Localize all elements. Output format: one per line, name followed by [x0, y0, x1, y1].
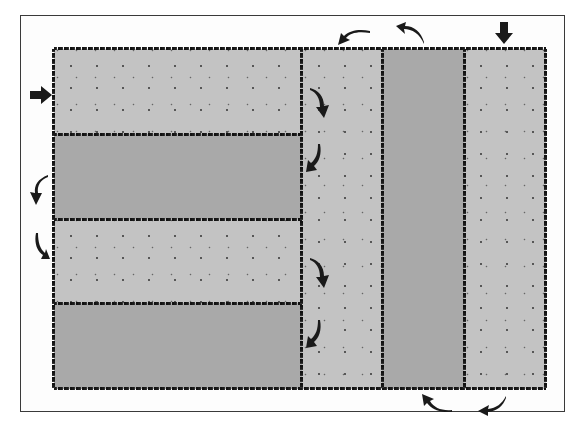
right-strip-3 — [464, 49, 546, 389]
curved-arrow-down-icon — [306, 320, 322, 350]
edge-right — [544, 49, 547, 389]
left-strip-2 — [54, 134, 302, 219]
field-area — [54, 49, 546, 389]
arrow-right-icon — [30, 86, 52, 104]
curved-arrow-down-icon — [306, 144, 322, 174]
curved-arrow-left-icon — [338, 30, 370, 46]
edge-left-1-2 — [54, 133, 302, 136]
curved-arrow-down-icon — [310, 258, 332, 288]
edge-right-2-3 — [463, 49, 466, 389]
edge-right-1-2 — [381, 49, 384, 389]
curved-arrow-up-left-icon — [396, 22, 424, 44]
right-strip-2 — [382, 49, 464, 389]
left-strip-1 — [54, 49, 302, 134]
edge-left-2-3 — [54, 218, 302, 221]
edge-block-divider — [300, 49, 303, 389]
curved-arrow-up-left-icon — [422, 394, 452, 412]
edge-left-3-4 — [54, 302, 302, 305]
left-strip-4 — [54, 303, 302, 389]
left-strip-3 — [54, 219, 302, 303]
curved-arrow-down-icon — [34, 233, 50, 265]
curved-arrow-down-icon — [310, 88, 332, 118]
curved-arrow-left-icon — [478, 396, 506, 416]
curved-arrow-down-icon — [28, 175, 48, 205]
arrow-down-icon — [495, 22, 513, 44]
